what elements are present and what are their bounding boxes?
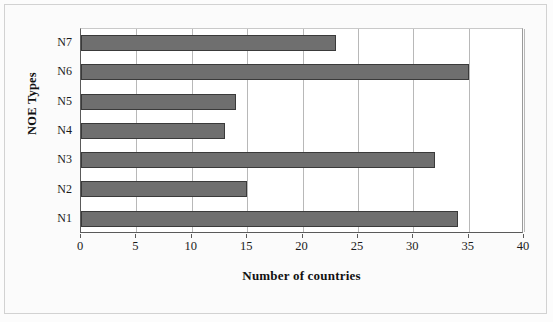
y-tick-label-n7: N7: [32, 35, 72, 49]
x-tick-label-25: 25: [337, 239, 377, 254]
bar-row-n1: [81, 205, 522, 234]
x-tick-label-20: 20: [282, 239, 322, 254]
bar-row-n4: [81, 117, 522, 146]
x-tick-mark-30: [412, 234, 413, 238]
x-tick-mark-10: [191, 234, 192, 238]
gridline-40: [524, 29, 525, 232]
x-axis-tick-labels: 0510152025303540: [80, 234, 523, 256]
x-tick-label-5: 5: [115, 239, 155, 254]
x-tick-mark-25: [357, 234, 358, 238]
x-tick-label-30: 30: [392, 239, 432, 254]
x-tick-mark-0: [80, 234, 81, 238]
x-tick-label-35: 35: [448, 239, 488, 254]
x-tick-label-10: 10: [171, 239, 211, 254]
y-tick-label-n2: N2: [32, 182, 72, 196]
bar-n1[interactable]: [81, 211, 458, 227]
bar-row-n7: [81, 29, 522, 58]
y-tick-label-n4: N4: [32, 123, 72, 137]
bar-chart-figure: NOE Types N7 N6 N5 N4 N3 N2 N1 051015202…: [0, 0, 553, 322]
bar-n7[interactable]: [81, 35, 336, 51]
y-tick-label-n6: N6: [32, 64, 72, 78]
bar-n5[interactable]: [81, 94, 236, 110]
bar-row-n6: [81, 58, 522, 87]
y-tick-label-n5: N5: [32, 94, 72, 108]
bar-n4[interactable]: [81, 123, 225, 139]
bar-n6[interactable]: [81, 64, 469, 80]
x-tick-mark-5: [135, 234, 136, 238]
plot-area: [80, 28, 523, 233]
x-tick-label-40: 40: [503, 239, 543, 254]
x-tick-mark-35: [468, 234, 469, 238]
x-axis-title: Number of countries: [80, 268, 523, 284]
bar-row-n2: [81, 175, 522, 204]
x-tick-label-0: 0: [60, 239, 100, 254]
bar-n2[interactable]: [81, 181, 247, 197]
y-axis-tick-labels: N7 N6 N5 N4 N3 N2 N1: [0, 28, 80, 233]
x-tick-mark-20: [302, 234, 303, 238]
x-tick-mark-40: [523, 234, 524, 238]
bar-n3[interactable]: [81, 152, 435, 168]
y-tick-label-n3: N3: [32, 152, 72, 166]
bar-row-n3: [81, 146, 522, 175]
x-tick-label-15: 15: [226, 239, 266, 254]
bar-row-n5: [81, 88, 522, 117]
x-tick-mark-15: [246, 234, 247, 238]
y-tick-label-n1: N1: [32, 211, 72, 225]
